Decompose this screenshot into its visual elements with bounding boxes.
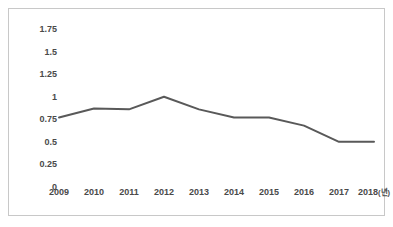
x-axis-unit-label: (년) xyxy=(378,188,390,197)
x-axis-tick-label: 2016 xyxy=(294,187,314,198)
line-series-layer xyxy=(9,9,386,217)
chart-plot-area: 00.250.50.7511.251.51.75 200920102011201… xyxy=(9,9,386,217)
x-axis: 2009201020112012201320142015201620172018… xyxy=(49,187,386,209)
x-axis-tick-label: 2010 xyxy=(84,187,104,198)
line-series-path xyxy=(59,97,374,142)
x-axis-tick-label: 2018(년) xyxy=(358,187,390,198)
x-axis-tick-label: 2017 xyxy=(329,187,349,198)
x-axis-tick-label: 2011 xyxy=(119,187,139,198)
x-axis-tick-label: 2014 xyxy=(224,187,244,198)
chart-figure-frame: 00.250.50.7511.251.51.75 200920102011201… xyxy=(8,8,385,216)
x-axis-tick-label: 2013 xyxy=(189,187,209,198)
x-axis-tick-label: 2012 xyxy=(154,187,174,198)
chart-screenshot: 00.250.50.7511.251.51.75 200920102011201… xyxy=(0,0,393,227)
x-axis-tick-label: 2009 xyxy=(49,187,69,198)
x-axis-tick-label: 2015 xyxy=(259,187,279,198)
